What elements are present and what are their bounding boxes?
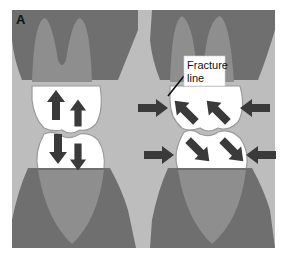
- diagram-canvas: Fracture line A: [0, 0, 285, 257]
- dental-force-diagram: Fracture line A: [0, 0, 285, 257]
- left-upper-crown: [32, 86, 101, 133]
- callout-line-2: line: [187, 72, 204, 84]
- left-lower-crown: [37, 132, 105, 170]
- panel-label: A: [16, 12, 26, 27]
- callout-line-1: Fracture: [187, 59, 228, 71]
